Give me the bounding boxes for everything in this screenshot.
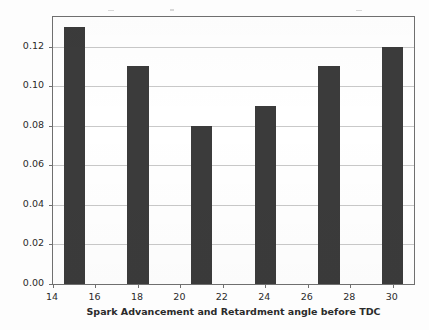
plot-area bbox=[52, 16, 415, 285]
gridline-y bbox=[53, 165, 414, 166]
x-axis-tick-label: 20 bbox=[164, 291, 194, 302]
bar bbox=[255, 106, 276, 284]
gridline-y bbox=[53, 86, 414, 87]
x-axis-tick bbox=[223, 284, 224, 288]
y-axis-tick bbox=[49, 86, 53, 87]
scan-artifact bbox=[170, 9, 174, 11]
y-axis-tick-label: 0.08 bbox=[0, 119, 44, 130]
x-axis-title: Spark Advancement and Retardment angle b… bbox=[52, 306, 415, 317]
bar bbox=[382, 47, 403, 284]
y-axis-tick bbox=[49, 47, 53, 48]
x-axis-tick-label: 28 bbox=[334, 291, 364, 302]
x-axis-tick bbox=[95, 284, 96, 288]
scan-artifact bbox=[356, 10, 362, 11]
x-axis-tick-label: 18 bbox=[122, 291, 152, 302]
gridline-y bbox=[53, 244, 414, 245]
x-axis-tick-label: 14 bbox=[37, 291, 67, 302]
y-axis-tick-label: 0.00 bbox=[0, 277, 44, 288]
x-axis-tick-label: 24 bbox=[249, 291, 279, 302]
y-axis-tick bbox=[49, 126, 53, 127]
x-axis-tick bbox=[393, 284, 394, 288]
y-axis-tick bbox=[49, 244, 53, 245]
y-axis-tick-label: 0.10 bbox=[0, 79, 44, 90]
scan-artifact bbox=[108, 10, 114, 11]
x-axis-tick bbox=[308, 284, 309, 288]
y-axis-tick bbox=[49, 205, 53, 206]
bar bbox=[318, 66, 339, 284]
x-axis-tick bbox=[53, 284, 54, 288]
y-axis-tick bbox=[49, 165, 53, 166]
gridline-y bbox=[53, 126, 414, 127]
y-axis-tick-label: 0.06 bbox=[0, 158, 44, 169]
x-axis-tick bbox=[265, 284, 266, 288]
y-axis-tick-label: 0.04 bbox=[0, 198, 44, 209]
x-axis-tick-label: 16 bbox=[79, 291, 109, 302]
x-axis-tick-label: 26 bbox=[292, 291, 322, 302]
x-axis-tick bbox=[138, 284, 139, 288]
y-axis-tick-label: 0.02 bbox=[0, 237, 44, 248]
chart-figure: HC Emissions (g/kWhr) 0.000.020.040.060.… bbox=[0, 0, 429, 330]
bar bbox=[64, 27, 85, 284]
x-axis-tick bbox=[350, 284, 351, 288]
x-axis-tick bbox=[180, 284, 181, 288]
bar bbox=[191, 126, 212, 284]
x-axis-tick-label: 30 bbox=[377, 291, 407, 302]
bar bbox=[127, 66, 148, 284]
gridline-y bbox=[53, 47, 414, 48]
y-axis-tick-label: 0.12 bbox=[0, 40, 44, 51]
gridline-y bbox=[53, 205, 414, 206]
x-axis-tick-label: 22 bbox=[207, 291, 237, 302]
